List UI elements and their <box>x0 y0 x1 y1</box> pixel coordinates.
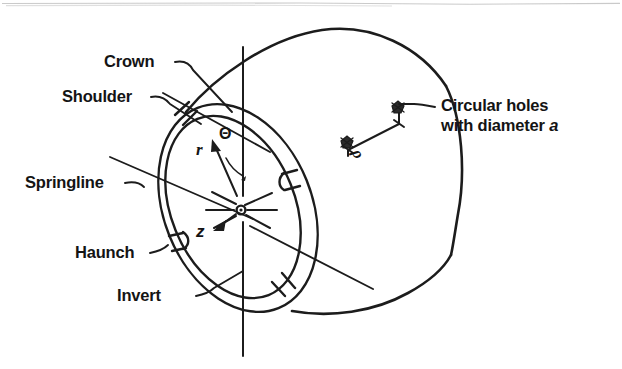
centre-dot <box>239 208 242 211</box>
label-haunch: Haunch <box>75 243 134 262</box>
label-shoulder: Shoulder <box>62 87 132 106</box>
leader-springline <box>125 182 144 187</box>
scan-artifact <box>2 3 620 6</box>
label-circular-holes-line1: Circular holes <box>441 96 548 115</box>
pipe-schematic-figure: Crown Shoulder Springline Haunch Invert … <box>0 0 622 369</box>
holes-diameter-text: with diameter <box>441 116 549 134</box>
label-springline: Springline <box>25 173 104 192</box>
barrel-holes-group <box>341 101 404 156</box>
symbol-z: z <box>196 222 205 242</box>
hole-mark-upper <box>392 101 404 113</box>
label-crown: Crown <box>104 52 154 71</box>
leader-haunch <box>150 245 168 253</box>
barrel-top-edge <box>186 29 446 112</box>
symbol-r: r <box>196 140 203 160</box>
label-invert: Invert <box>117 286 161 305</box>
symbol-theta: Θ <box>219 125 231 143</box>
barrel-bottom-edge <box>292 255 451 314</box>
label-circular-holes-line2: with diameter a <box>441 116 558 135</box>
hole-diameter-symbol: a <box>549 116 558 134</box>
